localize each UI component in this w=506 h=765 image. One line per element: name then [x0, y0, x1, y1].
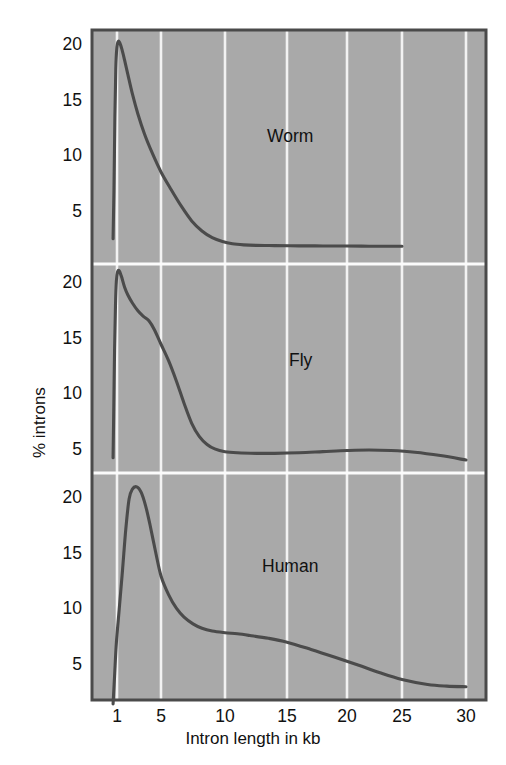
x-axis-label: Intron length in kb: [0, 729, 506, 749]
y-axis-tick-fly-20: 20: [28, 272, 82, 293]
y-axis-tick-human-10: 10: [28, 598, 82, 619]
x-axis-tick-10: 10: [195, 706, 255, 727]
y-axis-tick-human-15: 15: [28, 543, 82, 564]
panel-annotation-fly: Fly: [289, 350, 312, 371]
y-axis-tick-fly-15: 15: [28, 328, 82, 349]
y-axis-tick-fly-5: 5: [28, 439, 82, 460]
x-axis-tick-5: 5: [131, 706, 191, 727]
y-axis-tick-worm-15: 15: [28, 90, 82, 111]
x-axis-tick-15: 15: [257, 706, 317, 727]
x-axis-tick-25: 25: [372, 706, 432, 727]
y-axis-tick-worm-10: 10: [28, 145, 82, 166]
x-axis-tick-30: 30: [436, 706, 496, 727]
y-axis-tick-worm-20: 20: [28, 34, 82, 55]
y-axis-tick-human-20: 20: [28, 487, 82, 508]
panel-annotation-worm: Worm: [267, 126, 313, 147]
intron-length-distribution-figure: % introns Intron length in kb 5101520510…: [0, 0, 506, 765]
panel-annotation-human: Human: [262, 556, 318, 577]
y-axis-tick-fly-10: 10: [28, 383, 82, 404]
x-axis-tick-20: 20: [317, 706, 377, 727]
y-axis-tick-human-5: 5: [28, 654, 82, 675]
y-axis-tick-worm-5: 5: [28, 201, 82, 222]
